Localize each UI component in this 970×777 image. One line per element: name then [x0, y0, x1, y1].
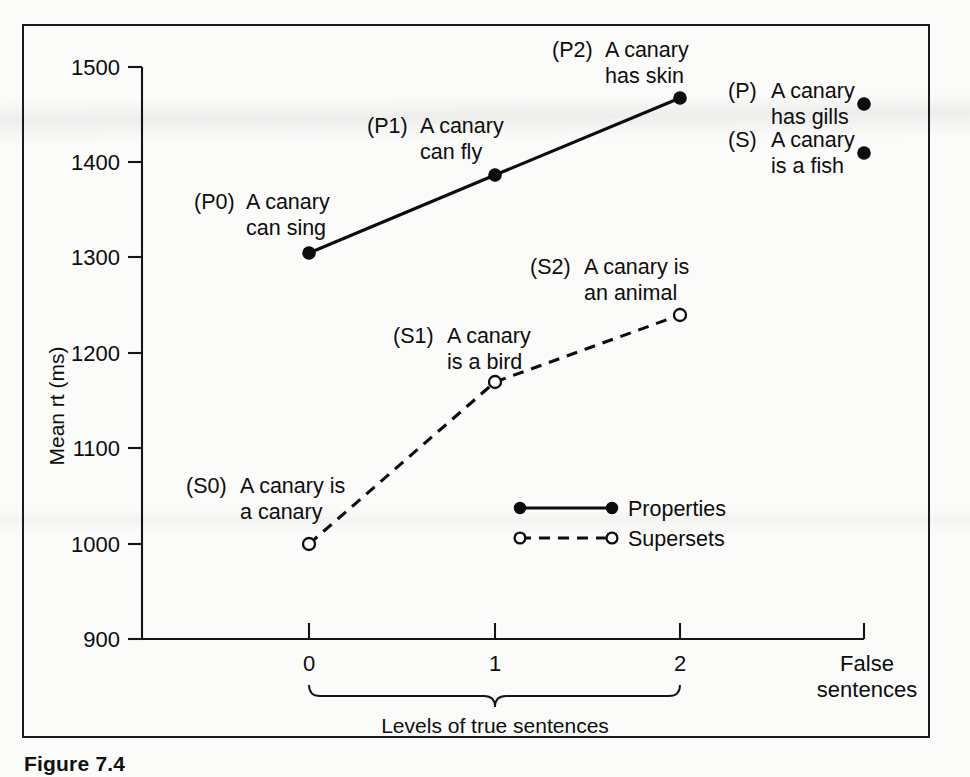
figure-caption: Figure 7.4 [24, 752, 125, 777]
y-tick-1300: 1300 [71, 245, 120, 270]
data-point-S1 [489, 376, 501, 388]
annotation-P2-line1: A canary [605, 38, 689, 62]
annotation-P2: (P2) A canary has skin [552, 38, 689, 88]
legend-label-properties: Properties [628, 497, 726, 521]
annotation-S-false: (S) A canary is a fish [728, 128, 855, 178]
y-tick-900: 900 [83, 627, 120, 652]
annotation-P0-line1: A canary [246, 190, 330, 214]
annotation-S2-line2: an animal [584, 281, 677, 305]
annotation-S0-line2: a canary [240, 500, 323, 524]
x-axis-title: Levels of true sentences [381, 714, 609, 737]
chart-canvas: 1500 1400 1300 1200 1100 1000 900 Mean r… [24, 26, 932, 740]
annotation-S-tag: (S) [728, 128, 757, 152]
y-axis-tick-labels: 1500 1400 1300 1200 1100 1000 900 [71, 55, 120, 652]
annotation-S2-line1: A canary is [584, 255, 689, 279]
annotation-P0-tag: (P0) [194, 190, 235, 214]
y-tick-1500: 1500 [71, 55, 120, 80]
y-tick-1100: 1100 [73, 436, 120, 461]
y-axis-title: Mean rt (ms) [45, 346, 68, 465]
legend-item-supersets[interactable]: Supersets [515, 527, 725, 551]
x-tick-1: 1 [489, 651, 501, 676]
data-point-P2 [674, 92, 686, 104]
chart-legend: Properties Supersets [514, 497, 726, 551]
annotation-S1: (S1) A canary is a bird [393, 324, 531, 374]
data-point-P1 [489, 169, 501, 181]
data-point-S2 [674, 309, 686, 321]
legend-label-supersets: Supersets [628, 527, 725, 551]
annotation-P1: (P1) A canary can fly [367, 114, 504, 164]
y-tick-1200: 1200 [71, 341, 120, 366]
annotation-S2: (S2) A canary is an animal [530, 255, 689, 305]
y-tick-1400: 1400 [71, 150, 120, 175]
data-point-P0 [303, 247, 315, 259]
annotation-P1-tag: (P1) [367, 114, 408, 138]
y-tick-1000: 1000 [71, 532, 120, 557]
annotation-S1-line1: A canary [447, 324, 531, 348]
annotation-S0-line1: A canary is [240, 474, 345, 498]
annotation-P-line1: A canary [771, 79, 855, 103]
annotation-S1-line2: is a bird [447, 350, 522, 374]
annotation-S1-tag: (S1) [393, 324, 434, 348]
y-axis-ticks [128, 67, 142, 639]
annotation-S2-tag: (S2) [530, 255, 571, 279]
legend-marker-properties-start [514, 502, 525, 513]
annotation-P1-line2: can fly [420, 140, 482, 164]
data-point-P-false [858, 98, 870, 110]
annotation-P-false: (P) A canary has gills [728, 79, 855, 129]
annotation-P0: (P0) A canary can sing [194, 190, 330, 240]
x-tick-false-line1: False [840, 651, 894, 676]
legend-item-properties[interactable]: Properties [514, 497, 726, 521]
annotation-S0: (S0) A canary is a canary [186, 474, 345, 524]
annotation-S-line1: A canary [771, 128, 855, 152]
annotation-P0-line2: can sing [246, 216, 326, 240]
x-tick-0: 0 [303, 651, 315, 676]
annotation-P-line2: has gills [771, 105, 849, 129]
annotation-P2-line2: has skin [605, 64, 684, 88]
annotation-P1-line1: A canary [420, 114, 504, 138]
x-axis-ticks [309, 623, 864, 639]
x-axis-tick-labels: 0 1 2 False sentences [303, 651, 917, 702]
annotation-P-tag: (P) [728, 79, 757, 103]
figure-border: 1500 1400 1300 1200 1100 1000 900 Mean r… [22, 24, 930, 738]
annotation-S0-tag: (S0) [186, 474, 227, 498]
annotation-S-line2: is a fish [771, 154, 844, 178]
x-tick-2: 2 [674, 651, 686, 676]
annotation-P2-tag: (P2) [552, 38, 593, 62]
x-tick-false-line2: sentences [817, 677, 917, 702]
legend-marker-properties-end [606, 502, 617, 513]
true-sentences-brace [309, 685, 680, 707]
legend-marker-supersets-end [607, 533, 618, 544]
data-point-S0 [303, 538, 315, 550]
legend-marker-supersets-start [515, 533, 526, 544]
data-point-S-false [858, 147, 870, 159]
